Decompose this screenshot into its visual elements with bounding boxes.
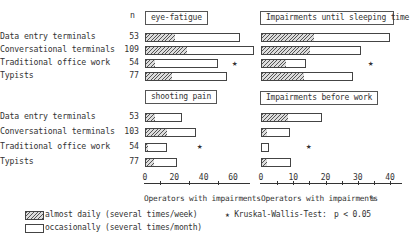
significance-star-icon: ★	[232, 58, 237, 68]
legend-hatched-swatch	[25, 211, 44, 220]
legend-hatched-label: almost daily (several times/week)	[45, 210, 197, 220]
bar-traditional-office-work	[145, 59, 218, 68]
bar-typists	[145, 158, 177, 167]
bar-hatched-portion	[146, 144, 148, 151]
axis-tick	[309, 181, 310, 185]
bar-hatched-portion	[262, 47, 310, 54]
right-axis-title: Operators with impairments	[261, 194, 378, 203]
axis-tick	[218, 181, 219, 185]
bar-conversational-terminals	[145, 46, 254, 55]
bar-typists	[145, 72, 227, 81]
n-value: 53	[121, 31, 139, 41]
panel-title-impairments-until-sleeping: Impairments until sleeping time	[260, 11, 394, 25]
bar-typists	[261, 72, 353, 81]
n-value: 77	[121, 156, 139, 166]
bar-conversational-terminals	[261, 128, 290, 137]
bar-hatched-portion	[146, 47, 187, 54]
bar-hatched-portion	[146, 34, 175, 41]
axis-tick-label: 0	[143, 173, 148, 182]
bar-data-entry-terminals	[261, 33, 390, 42]
right-x-axis	[260, 183, 402, 184]
panel-title-eye-fatigue: eye-fatigue	[145, 11, 208, 25]
n-value: 53	[121, 111, 139, 121]
bar-data-entry-terminals	[261, 113, 322, 122]
bar-data-entry-terminals	[145, 33, 240, 42]
n-header: n	[130, 10, 135, 20]
group-label-traditional-top: Traditional office work	[0, 57, 110, 67]
bar-hatched-portion	[262, 73, 304, 80]
axis-tick-label: 0	[259, 173, 264, 182]
n-value: 54	[121, 57, 139, 67]
group-label-conversational-bottom: Conversational terminals	[0, 126, 115, 136]
n-value: 77	[121, 70, 139, 80]
axis-tick	[277, 181, 278, 185]
bar-data-entry-terminals	[145, 113, 182, 122]
bar-hatched-portion	[262, 129, 267, 136]
group-label-data-entry-top: Data entry terminals	[0, 31, 96, 41]
axis-tick	[374, 181, 375, 185]
bar-hatched-portion	[262, 114, 288, 121]
legend-p-value: p < 0.05	[334, 210, 371, 220]
bar-traditional-office-work	[261, 59, 306, 68]
bar-hatched-portion	[262, 60, 286, 67]
axis-tick	[160, 181, 161, 185]
significance-star-icon: ★	[306, 141, 311, 151]
axis-tick	[342, 181, 343, 185]
group-label-typists-top: Typists	[0, 70, 33, 80]
bar-conversational-terminals	[145, 128, 196, 137]
legend-open-swatch	[25, 224, 44, 233]
axis-tick-label: 10	[288, 173, 298, 182]
axis-tick-label: 30	[353, 173, 363, 182]
n-value: 54	[121, 141, 139, 151]
significance-star-icon: ★	[368, 58, 373, 68]
axis-tick	[189, 181, 190, 185]
significance-star-icon: ★	[197, 141, 202, 151]
bar-hatched-portion	[262, 34, 314, 41]
group-label-data-entry-bottom: Data entry terminals	[0, 111, 96, 121]
bar-hatched-portion	[262, 159, 267, 166]
axis-tick-label: 60	[228, 173, 238, 182]
group-label-conversational-top: Conversational terminals	[0, 44, 115, 54]
axis-tick-label: 40	[385, 173, 395, 182]
n-value: 103	[121, 126, 139, 136]
bar-traditional-office-work	[145, 143, 167, 152]
bar-typists	[261, 158, 291, 167]
bar-hatched-portion	[146, 114, 155, 121]
panel-title-shooting-pain: shooting pain	[145, 90, 217, 104]
left-axis-title: Operators with impairments	[144, 194, 261, 203]
legend-open-label: occasionally (several times/month)	[45, 223, 202, 233]
right-axis-unit: %	[370, 194, 375, 203]
bar-conversational-terminals	[261, 46, 361, 55]
axis-tick-label: 20	[170, 173, 180, 182]
bar-hatched-portion	[146, 60, 155, 67]
bar-traditional-office-work	[261, 143, 269, 152]
bar-hatched-portion	[146, 73, 172, 80]
bar-hatched-portion	[146, 159, 154, 166]
group-label-typists-bottom: Typists	[0, 156, 33, 166]
legend-significance-label: ★ Kruskal-Wallis-Test:	[225, 210, 327, 220]
axis-tick-label: 40	[199, 173, 209, 182]
group-label-traditional-bottom: Traditional office work	[0, 141, 110, 151]
n-value: 109	[121, 44, 139, 54]
axis-tick-label: 20	[321, 173, 331, 182]
panel-title-impairments-before-work: Impairments before work	[260, 91, 378, 105]
bar-hatched-portion	[146, 129, 167, 136]
